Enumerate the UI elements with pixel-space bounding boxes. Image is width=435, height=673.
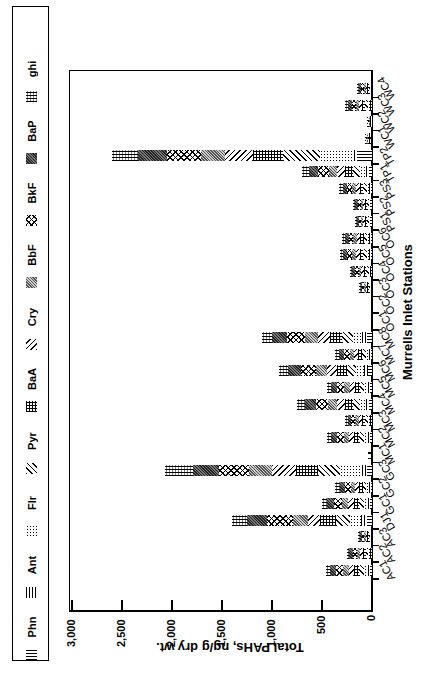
category-tick (372, 478, 379, 480)
bar-dj1 (232, 515, 372, 526)
legend-swatch (26, 153, 37, 164)
segment-bbf (201, 150, 225, 161)
legend-item-flr: Flr (13, 483, 50, 543)
segment-pyr (347, 365, 356, 376)
segment-bap (247, 515, 267, 526)
segment-bbf (293, 515, 308, 526)
category-tick (372, 196, 379, 198)
category-tick (372, 312, 379, 314)
segment-bkf (219, 465, 249, 476)
segment-bbf (329, 166, 337, 177)
category-tick (372, 462, 379, 464)
legend-item-ant: Ant (13, 545, 50, 605)
value-tick-label: 500 (315, 615, 327, 633)
legend-swatch (26, 525, 37, 536)
value-tick (321, 600, 323, 610)
segment-baa (330, 332, 342, 343)
bar-ac1 (326, 565, 372, 576)
legend-swatch (26, 339, 37, 350)
category-tick (372, 279, 379, 281)
segment-cry (327, 365, 337, 376)
category-tick (372, 495, 379, 497)
category-tick (372, 512, 379, 514)
legend: PhnAntFlrPyrBaACryBbFBkFBaPghi (12, 6, 49, 661)
segment-phn (357, 150, 372, 161)
bar-mc3 (345, 415, 372, 426)
value-axis-line (69, 610, 373, 612)
segment-baa (296, 465, 318, 476)
bar-wc1 (365, 133, 372, 144)
bar-mc2 (327, 432, 372, 443)
segment-bbf (305, 332, 318, 343)
category-tick (372, 561, 379, 563)
bar-tp2 (112, 150, 372, 161)
legend-item-ghi: ghi (13, 49, 50, 109)
segment-pyr (336, 515, 350, 526)
segment-phn (370, 498, 372, 509)
segment-phn (371, 249, 373, 260)
legend-label: Pyr (26, 426, 38, 456)
segment-phn (371, 100, 372, 111)
segment-phn (371, 199, 372, 210)
value-tick (71, 600, 73, 610)
segment-bap (309, 166, 318, 177)
segment-baa (320, 515, 336, 526)
bar-ac3 (358, 531, 372, 542)
segment-ghi (165, 465, 193, 476)
segment-phn (371, 266, 372, 277)
legend-label: Phn (26, 612, 38, 642)
segment-flr (320, 150, 354, 161)
category-tick (372, 445, 379, 447)
segment-ghi (262, 332, 272, 343)
segment-phn (370, 565, 372, 576)
segment-bkf (337, 432, 344, 443)
legend-item-bap: BaP (13, 111, 50, 171)
segment-flr (356, 365, 364, 376)
category-tick (372, 362, 379, 364)
value-tick (371, 600, 373, 610)
segment-bkf (372, 316, 373, 327)
segment-pyr (353, 399, 360, 410)
segment-flr (340, 465, 362, 476)
segment-ghi (112, 150, 138, 161)
category-tick (372, 528, 379, 530)
legend-label: Cry (26, 302, 38, 332)
bar-ps1 (355, 216, 372, 227)
category-tick (372, 163, 379, 165)
segment-phn (371, 349, 373, 360)
segment-baa (337, 365, 347, 376)
legend-item-pyr: Pyr (13, 421, 50, 481)
value-tick-label: 2,500 (115, 619, 127, 647)
value-tick-label: 3,000 (65, 619, 77, 647)
segment-bap (288, 365, 301, 376)
segment-phn (367, 332, 372, 343)
segment-phn (372, 531, 373, 542)
legend-swatch (26, 215, 37, 226)
bar-wc3 (345, 100, 372, 111)
segment-phn (372, 116, 373, 127)
legend-item-cry: Cry (13, 297, 50, 357)
category-tick (372, 246, 379, 248)
segment-bkf (267, 515, 293, 526)
bar-ps2 (353, 199, 372, 210)
legend-swatch (26, 277, 37, 288)
segment-ghi (302, 166, 309, 177)
legend-swatch (26, 587, 37, 598)
value-tick (271, 600, 273, 610)
legend-label: Flr (26, 488, 38, 518)
chart-figure: PhnAntFlrPyrBaACryBbFBkFBaPghi 05001,000… (0, 0, 435, 673)
segment-phn (369, 166, 372, 177)
value-tick (121, 600, 123, 610)
segment-phn (372, 448, 373, 459)
segment-phn (372, 133, 373, 144)
legend-swatch (26, 91, 37, 102)
category-tick (372, 263, 379, 265)
segment-bkf (337, 382, 344, 393)
bar-wc2 (367, 116, 372, 127)
legend-label: BaP (26, 116, 38, 146)
bar-oc4 (350, 266, 372, 277)
legend-label: ghi (26, 54, 38, 84)
bar-oc5 (340, 249, 372, 260)
bar-ps3 (339, 183, 372, 194)
category-tick (372, 97, 379, 99)
